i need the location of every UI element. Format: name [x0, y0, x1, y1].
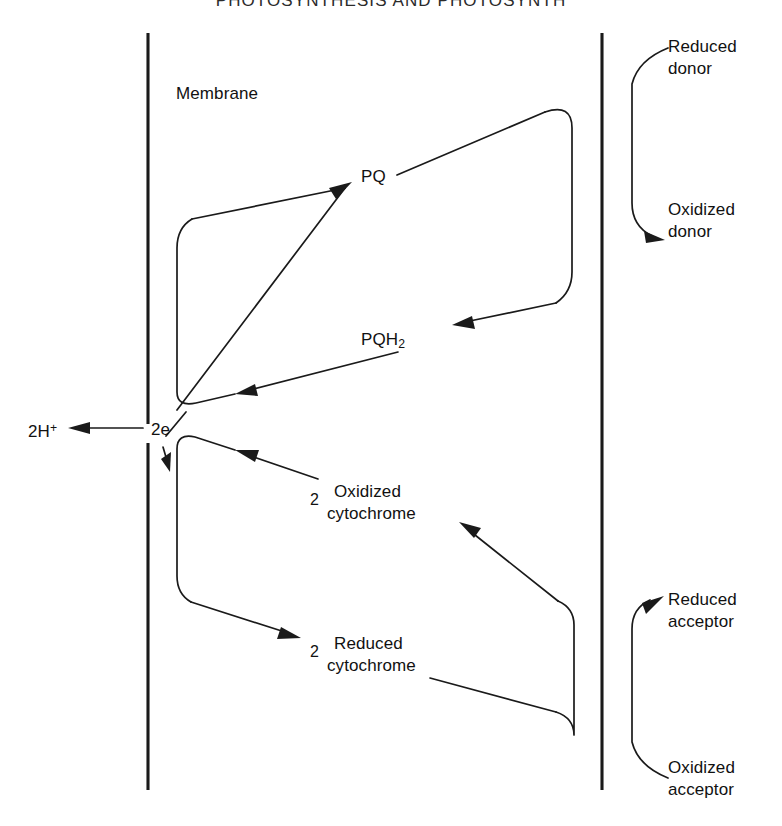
oxidized-cytochrome-label-line1: Oxidized — [334, 481, 401, 503]
pq-label: PQ — [361, 166, 386, 188]
pq-cycle-loop — [177, 110, 572, 410]
oxidized-donor-label-line1: Oxidized — [668, 199, 735, 221]
pqh2-subscript: 2 — [398, 337, 405, 351]
reduced-donor-label-line1: Reduced — [668, 36, 737, 58]
reduced-acceptor-label-line1: Reduced — [668, 589, 737, 611]
reduced-acceptor-label-line2: acceptor — [668, 611, 734, 633]
protons-base: 2H — [28, 422, 50, 441]
reduced-cytochrome-stoichiometry: 2 — [310, 641, 319, 663]
oxidized-cytochrome-label-line2: cytochrome — [327, 503, 416, 525]
electrons-label: 2e — [151, 419, 170, 441]
photosynthesis-electron-transport-diagram: PHOTOSYNTHESIS AND PHOTOSYNTH — [0, 0, 782, 826]
protons-superscript: + — [50, 421, 57, 435]
reduced-cytochrome-label-line1: Reduced — [334, 633, 403, 655]
pqh2-label: PQH2 — [361, 329, 405, 355]
oxidized-donor-label-line2: donor — [668, 221, 712, 243]
acceptor-redox-bracket — [632, 596, 668, 778]
reduced-donor-label-line2: donor — [668, 58, 712, 80]
protons-label: 2H+ — [28, 417, 57, 443]
oxidized-acceptor-label-line1: Oxidized — [668, 757, 735, 779]
proton-efflux-arrow — [68, 422, 143, 434]
diagram-canvas — [0, 0, 782, 826]
membrane-label: Membrane — [176, 83, 258, 105]
pqh2-base: PQH — [361, 330, 398, 349]
oxidized-cytochrome-stoichiometry: 2 — [310, 489, 319, 511]
donor-redox-bracket — [632, 48, 668, 243]
reduced-cytochrome-label-line2: cytochrome — [327, 655, 416, 677]
oxidized-acceptor-label-line2: acceptor — [668, 779, 734, 801]
